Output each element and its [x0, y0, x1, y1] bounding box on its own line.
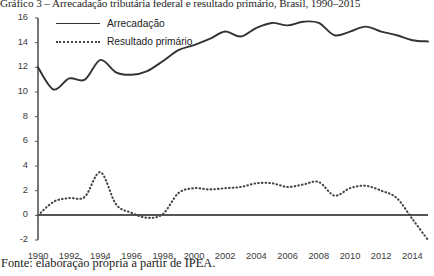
legend-label-arrecadacao: Arrecadação — [107, 18, 165, 29]
y-tick-12: 12 — [6, 62, 28, 71]
y-tick-8: 8 — [6, 112, 28, 121]
legend-label-resultado-primario: Resultado primário — [107, 36, 193, 47]
x-tick-2014: 2014 — [394, 251, 430, 261]
y-tick-neg2: -2 — [6, 235, 28, 244]
legend-item-arrecadacao: Arrecadação — [56, 16, 193, 31]
legend-swatch-dotted-icon — [56, 37, 100, 47]
legend-item-resultado-primario: Resultado primário — [56, 34, 193, 49]
line-resultado-primario — [38, 172, 428, 240]
y-tick-0: 0 — [6, 210, 28, 219]
y-tick-6: 6 — [6, 136, 28, 145]
y-tick-14: 14 — [6, 38, 28, 47]
y-tick-10: 10 — [6, 87, 28, 96]
x-tick-marks — [38, 240, 412, 243]
chart-legend: Arrecadação Resultado primário — [56, 16, 193, 52]
legend-swatch-solid-icon — [56, 19, 100, 29]
y-tick-16: 16 — [6, 13, 28, 22]
y-tick-4: 4 — [6, 161, 28, 170]
source-note: Fonte: elaboração própria a partir de IP… — [1, 256, 215, 271]
figure-container: Gráfico 3 – Arrecadação tributária feder… — [0, 0, 434, 276]
y-tick-2: 2 — [6, 186, 28, 195]
